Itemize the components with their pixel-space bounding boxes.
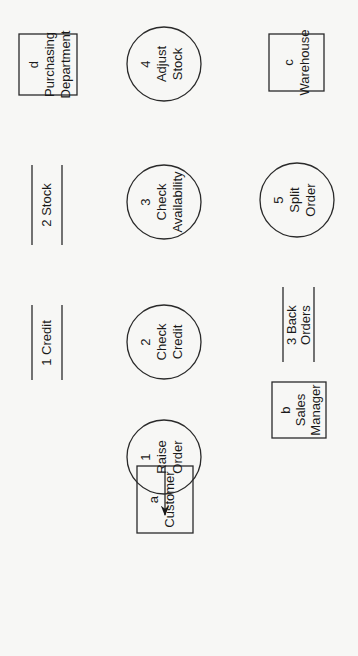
datastore-back-orders[interactable]: 3 Back Orders [283,287,314,362]
process-4-id: 4 [138,60,153,67]
entity-customer-label: Customer [162,471,177,528]
process-3-id: 3 [138,198,153,205]
dfd-canvas: a Customer 1 Raise Order 2 Check Credit … [0,0,358,656]
entity-b-id: b [278,406,293,413]
process-2-id: 2 [138,338,153,345]
process-1-id: 1 [138,453,153,460]
entity-d-id: d [26,61,41,68]
entity-b-line2: Manager [308,384,323,436]
process-3-check-availability[interactable]: 3 Check Availability [127,165,201,239]
datastore-stock[interactable]: 2 Stock [32,165,62,245]
process-4-line1: Adjust [154,46,169,83]
datastore-credit[interactable]: 1 Credit [32,305,62,380]
datastore-stock-label: 2 Stock [39,183,54,227]
process-5-split-order[interactable]: 5 Split Order [260,163,334,237]
datastore-back-orders-line2: Orders [298,305,313,345]
process-2-line2: Credit [170,324,185,359]
process-5-id: 5 [271,196,286,203]
process-5-line2: Order [303,183,318,217]
entity-d-line2: Department [58,30,73,98]
data-flow-diagram: a Customer 1 Raise Order 2 Check Credit … [0,0,358,656]
process-2-check-credit[interactable]: 2 Check Credit [127,305,201,379]
process-1-line2: Order [170,440,185,474]
entity-c-label: Warehouse [297,30,312,96]
process-2-line1: Check [154,323,169,360]
entity-warehouse[interactable]: c Warehouse [269,30,324,96]
entity-customer-id: a [146,495,161,503]
datastore-back-orders-line1: 3 Back [284,305,299,345]
entity-purchasing-department[interactable]: d Purchasing Department [19,30,77,98]
process-4-adjust-stock[interactable]: 4 Adjust Stock [127,27,201,101]
entity-d-line1: Purchasing [42,32,57,97]
entity-c-id: c [281,59,296,66]
entity-sales-manager[interactable]: b Sales Manager [272,382,326,438]
entity-b-line1: Sales [293,393,308,426]
process-1-line1: Raise [154,440,169,473]
process-3-line1: Check [154,183,169,220]
process-3-line2: Availability [170,171,185,233]
datastore-credit-label: 1 Credit [39,320,54,366]
process-5-line1: Split [287,187,302,213]
process-4-line2: Stock [170,47,185,80]
